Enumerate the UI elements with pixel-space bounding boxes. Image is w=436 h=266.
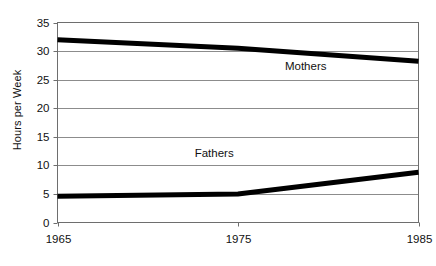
data-series bbox=[58, 40, 419, 197]
line-chart: Hours per Week 05101520253035 1965197519… bbox=[0, 0, 436, 266]
plot-area bbox=[0, 0, 436, 266]
series-line bbox=[58, 172, 419, 196]
gridlines bbox=[58, 52, 419, 195]
y-axis-tick-marks bbox=[54, 24, 58, 224]
series-line bbox=[58, 40, 419, 62]
series-label-fathers: Fathers bbox=[195, 147, 234, 160]
series-label-mothers: Mothers bbox=[285, 60, 327, 73]
x-axis-tick-marks bbox=[59, 223, 420, 227]
